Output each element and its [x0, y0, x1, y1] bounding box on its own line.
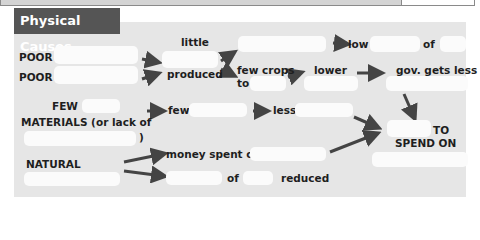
label-less: less [273, 104, 296, 116]
blank-spend-on[interactable] [372, 152, 468, 167]
blank-of-1[interactable] [440, 36, 466, 52]
blank-lower[interactable] [304, 76, 358, 91]
blank-poor-2[interactable] [54, 66, 138, 84]
blank-to[interactable] [250, 76, 286, 91]
label-little: little [181, 36, 209, 48]
blank-gov[interactable] [386, 76, 468, 91]
blank-less[interactable] [295, 103, 353, 117]
blank-natural[interactable] [24, 172, 120, 186]
label-spend-on: SPEND ON [395, 137, 456, 149]
label-natural: NATURAL [26, 158, 81, 170]
blank-top-1[interactable] [238, 36, 326, 52]
blank-of-2-before[interactable] [166, 171, 222, 185]
label-money-spent-on: money spent on [166, 148, 261, 160]
blank-poor-1[interactable] [54, 46, 138, 64]
blank-few-cap[interactable] [82, 99, 120, 113]
blank-money-spent[interactable] [250, 147, 326, 161]
label-few: few [168, 104, 189, 116]
blank-of-2-after[interactable] [243, 171, 273, 185]
blank-little[interactable] [162, 51, 218, 68]
label-lower: lower [314, 64, 347, 76]
label-close-paren: ) [139, 131, 144, 143]
label-poor-2: POOR [19, 71, 53, 83]
blank-few[interactable] [189, 103, 247, 117]
label-poor-1: POOR [19, 51, 53, 63]
label-few-cap: FEW [52, 100, 78, 112]
blank-low[interactable] [370, 36, 420, 52]
label-reduced: reduced [281, 172, 329, 184]
blank-materials[interactable] [24, 131, 136, 146]
label-to-cap: TO [433, 124, 449, 136]
label-low: low [348, 38, 369, 50]
label-of-1: of [423, 38, 435, 50]
label-produced: produced [167, 68, 223, 80]
label-of-2: of [227, 172, 239, 184]
blank-to-spend[interactable] [387, 120, 431, 137]
arrow-poor1-to-little [142, 59, 157, 62]
label-materials: MATERIALS (or lack of [21, 116, 151, 128]
label-to: to [237, 77, 249, 89]
label-gov-gets-less: gov. gets less [396, 64, 477, 76]
label-few-crops: few crops [237, 64, 294, 76]
